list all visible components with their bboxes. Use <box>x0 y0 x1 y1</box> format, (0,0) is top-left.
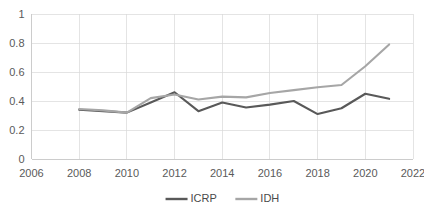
y-tick-label: 0.6 <box>9 66 24 78</box>
x-tick-label: 2022 <box>401 167 424 179</box>
legend-label-icrp: ICRP <box>191 192 217 204</box>
x-tick-label: 2010 <box>115 167 139 179</box>
chart-canvas: 00.20.40.60.81 2006200820102012201420162… <box>0 0 424 217</box>
x-tick-label: 2012 <box>162 167 186 179</box>
x-tick-label: 2018 <box>305 167 329 179</box>
x-tick-label: 2016 <box>258 167 282 179</box>
y-tick-label: 0.8 <box>9 37 24 49</box>
x-tick-label: 2008 <box>67 167 91 179</box>
y-tick-label: 0.2 <box>9 124 24 136</box>
y-tick-label: 0.4 <box>9 95 24 107</box>
x-tick-label: 2006 <box>19 167 43 179</box>
x-tick-label: 2014 <box>210 167 234 179</box>
series-line-icrp <box>79 92 389 114</box>
x-axis-tick-labels: 200620082010201220142016201820202022 <box>19 167 424 179</box>
y-tick-label: 0 <box>18 153 24 165</box>
gridlines-group <box>32 14 414 159</box>
chart-legend: ICRPIDH <box>166 192 280 204</box>
series-group <box>79 44 389 114</box>
series-line-idh <box>79 44 389 112</box>
line-chart: 00.20.40.60.81 2006200820102012201420162… <box>0 0 424 217</box>
y-tick-label: 1 <box>18 8 24 20</box>
y-axis-tick-labels: 00.20.40.60.81 <box>9 8 24 165</box>
x-tick-label: 2020 <box>353 167 377 179</box>
legend-label-idh: IDH <box>260 192 279 204</box>
